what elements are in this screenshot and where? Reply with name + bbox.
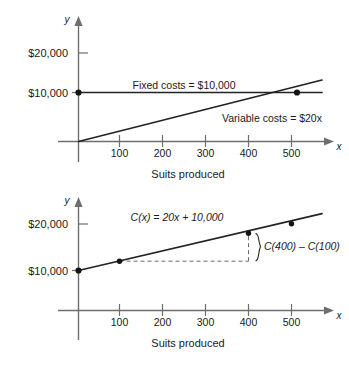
bottom-x-tick-label-100: 100 xyxy=(111,316,129,328)
top-x-axis xyxy=(58,137,334,145)
bottom-x-tick-label-500: 500 xyxy=(283,316,301,328)
data-point-intersection-500 xyxy=(294,89,300,95)
variable-costs-annotation: Variable costs = $20x xyxy=(222,112,323,124)
top-y-ticks xyxy=(72,53,88,93)
bottom-x-axis-name: x xyxy=(336,310,343,321)
data-point-x400 xyxy=(246,231,251,236)
bottom-y-ticks xyxy=(72,224,88,271)
data-point-x0 xyxy=(75,267,81,273)
top-x-tick-label-200: 200 xyxy=(154,147,172,159)
bottom-x-tick-label-300: 300 xyxy=(197,316,215,328)
bottom-y-tick-label-10000: $10,000 xyxy=(28,265,68,277)
top-y-tick-label-20000: $20,000 xyxy=(28,47,68,59)
top-x-tick-label-100: 100 xyxy=(111,147,129,159)
bottom-x-tick-label-200: 200 xyxy=(154,316,172,328)
cost-function-figure: y x $20,000 $10,000 100 200 300 400 500 xyxy=(0,0,349,367)
difference-brace xyxy=(256,234,261,261)
top-x-tick-label-400: 400 xyxy=(240,147,258,159)
bottom-y-tick-label-20000: $20,000 xyxy=(28,218,68,230)
bottom-x-axis-caption: Suits produced xyxy=(151,337,224,349)
top-x-tick-label-500: 500 xyxy=(283,147,301,159)
fixed-costs-annotation: Fixed costs = $10,000 xyxy=(132,79,235,91)
data-point-origin-fixed xyxy=(75,89,81,95)
bottom-x-axis xyxy=(58,306,334,314)
data-point-x500 xyxy=(289,221,294,226)
chart-top-fixed-variable-costs: y x $20,000 $10,000 100 200 300 400 500 xyxy=(0,0,349,185)
top-y-axis-name: y xyxy=(64,14,71,25)
data-point-x100 xyxy=(117,259,122,264)
bottom-x-tick-label-400: 400 xyxy=(240,316,258,328)
top-x-axis-name: x xyxy=(336,141,343,152)
chart-bottom-total-cost-function: y x $20,000 $10,000 100 200 300 400 500 xyxy=(0,185,349,367)
cost-function-annotation: C(x) = 20x + 10,000 xyxy=(131,211,224,223)
bottom-y-axis-name: y xyxy=(64,195,71,206)
top-x-tick-label-300: 300 xyxy=(197,147,215,159)
difference-annotation: C(400) – C(100) xyxy=(264,240,340,252)
top-y-tick-label-10000: $10,000 xyxy=(28,87,68,99)
top-x-axis-caption: Suits produced xyxy=(151,168,224,180)
